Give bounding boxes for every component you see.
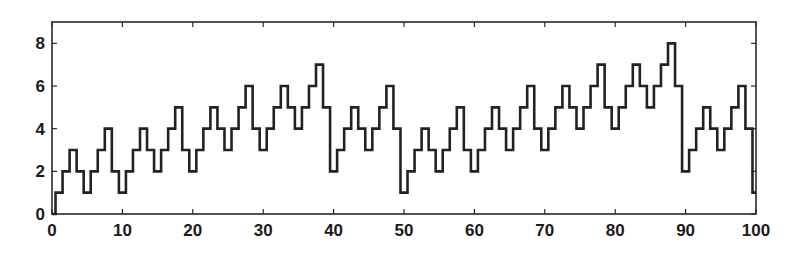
data-series-line bbox=[52, 43, 756, 214]
x-tick-label: 70 bbox=[535, 221, 554, 240]
axes-box bbox=[52, 22, 756, 214]
x-tick-label: 0 bbox=[47, 221, 56, 240]
x-tick-label: 40 bbox=[324, 221, 343, 240]
y-tick-label: 6 bbox=[36, 77, 45, 96]
y-tick-label: 8 bbox=[36, 34, 45, 53]
x-tick-label: 10 bbox=[113, 221, 132, 240]
x-tick-label: 30 bbox=[254, 221, 273, 240]
x-tick-label: 90 bbox=[676, 221, 695, 240]
x-axis: 0102030405060708090100 bbox=[47, 22, 770, 240]
x-tick-label: 50 bbox=[395, 221, 414, 240]
y-tick-label: 2 bbox=[36, 162, 45, 181]
x-tick-label: 80 bbox=[606, 221, 625, 240]
plot-frame bbox=[52, 22, 756, 214]
x-tick-label: 100 bbox=[742, 221, 770, 240]
y-tick-label: 0 bbox=[36, 205, 45, 224]
x-tick-label: 20 bbox=[183, 221, 202, 240]
x-tick-label: 60 bbox=[465, 221, 484, 240]
step-chart: 0102030405060708090100 02468 bbox=[0, 0, 795, 254]
y-tick-label: 4 bbox=[36, 120, 46, 139]
